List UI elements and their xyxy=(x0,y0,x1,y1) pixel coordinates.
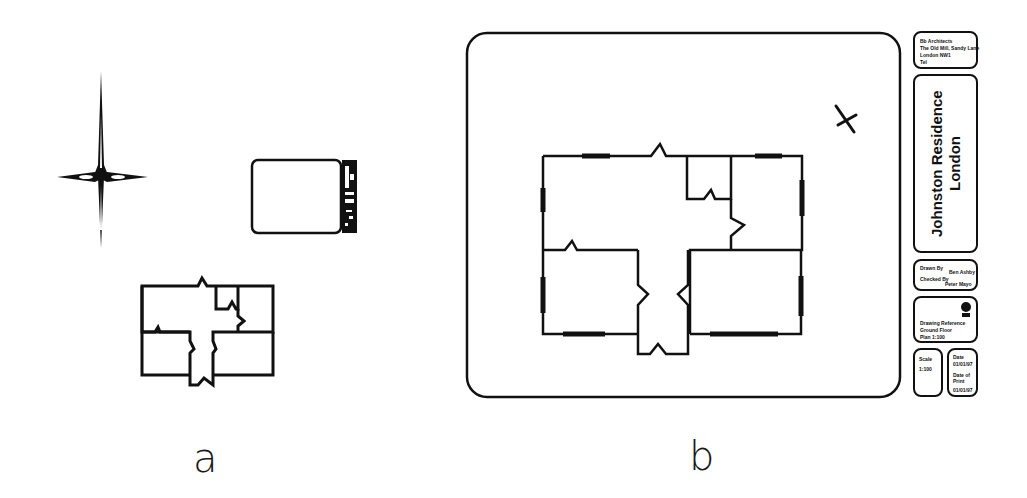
project-title: Johnston Residence xyxy=(928,90,946,237)
architect-name: Bb Architects xyxy=(920,38,952,44)
architect-address: The Old Mill, Sandy Lane xyxy=(920,45,979,51)
drawing-sheet-name: Ground Floor xyxy=(920,327,952,333)
title-block-drawn-box: Drawn By Ben Ashby Checked By Peter Mayo xyxy=(913,259,978,291)
architect-city: London NW1 xyxy=(920,52,951,58)
panel-label-a: a xyxy=(193,438,218,478)
print-date-value: 01/01/97 xyxy=(953,387,972,393)
drawing-frame xyxy=(467,33,900,397)
seal-icon xyxy=(961,302,971,312)
title-block-logo-box: Bb Architects The Old Mill, Sandy Lane L… xyxy=(913,31,978,69)
print-date-label: Date of Print xyxy=(953,372,975,384)
title-block-date-box: Date 01/01/97 Date of Print 01/01/97 xyxy=(947,348,978,397)
drawn-by-value: Ben Ashby xyxy=(949,269,975,275)
drawing-sheet-thumbnail xyxy=(252,160,357,233)
date-value: 01/01/97 xyxy=(953,361,972,367)
drawn-by-label: Drawn By xyxy=(920,265,943,271)
date-label: Date xyxy=(953,354,964,360)
floor-plan-thumbnail xyxy=(142,278,273,385)
north-arrow-small-icon xyxy=(836,106,856,132)
diagram-canvas xyxy=(0,0,1027,498)
title-block-scale-box: Scale 1:100 xyxy=(913,348,943,397)
architect-tel: Tel xyxy=(920,59,927,65)
seal-stand-icon xyxy=(962,313,970,317)
title-block-project-box: Johnston Residence London xyxy=(913,74,978,253)
title-block-reference-box: Drawing Reference Ground Floor Plan 1:10… xyxy=(913,296,978,343)
north-arrow-icon xyxy=(57,71,148,248)
checked-by-value: Peter Mayo xyxy=(945,281,972,287)
drawing-reference: Drawing Reference xyxy=(920,320,965,326)
project-location: London xyxy=(946,136,964,191)
drawing-scale-note: Plan 1:100 xyxy=(920,334,945,340)
panel-label-b: b xyxy=(689,436,714,476)
floor-plan xyxy=(543,144,802,354)
scale-label: Scale xyxy=(919,356,932,362)
scale-value: 1:100 xyxy=(919,366,932,372)
